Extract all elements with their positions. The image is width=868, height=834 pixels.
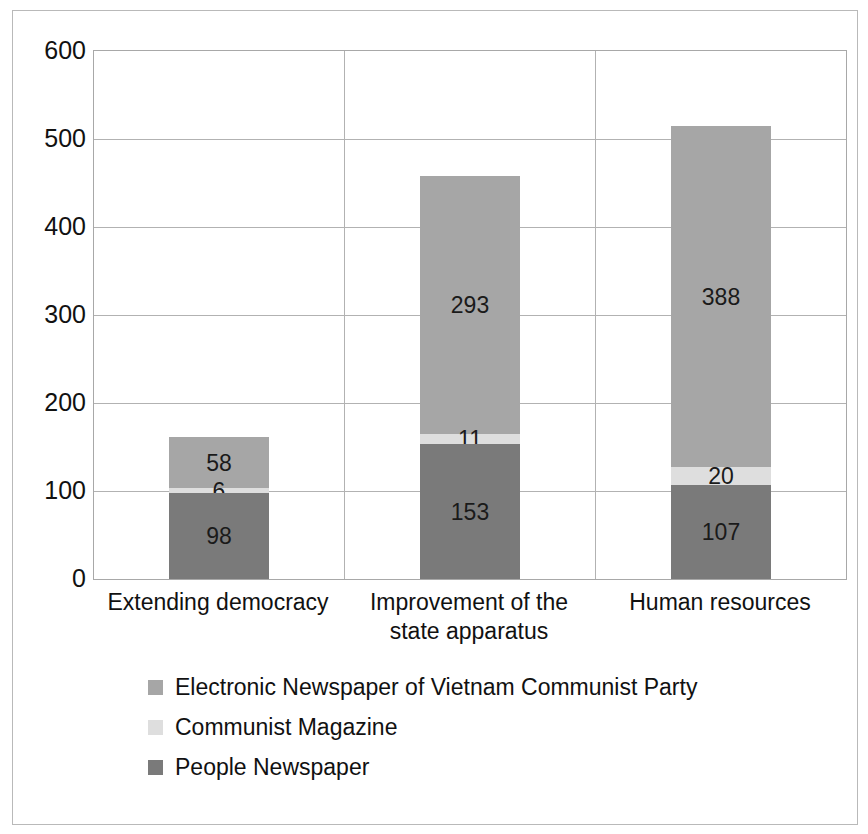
y-axis-tick-0: 0 <box>16 566 86 591</box>
legend-swatch-icon-people-newspaper <box>148 760 163 775</box>
x-axis-label-3: Human resources <box>595 588 845 617</box>
legend-swatch-icon-electronic-newspaper <box>148 680 163 695</box>
y-axis-tick-400: 400 <box>16 214 86 239</box>
legend-label-people-newspaper: People Newspaper <box>175 754 369 780</box>
legend-item-people-newspaper[interactable]: People Newspaper <box>148 747 788 787</box>
y-axis-tick-600: 600 <box>16 38 86 63</box>
x-axis-label-1: Extending democracy <box>93 588 343 617</box>
bar-stack-1[interactable]: 58 6 98 <box>169 437 269 579</box>
bar-segment-people-3[interactable]: 107 <box>671 485 771 579</box>
legend-item-communist-magazine[interactable]: Communist Magazine <box>148 707 788 747</box>
bar-value-people-2: 153 <box>420 500 520 523</box>
bar-value-people-3: 107 <box>671 521 771 544</box>
x-axis-label-2-line-1: Improvement of the <box>344 588 594 617</box>
y-axis-tick-100: 100 <box>16 478 86 503</box>
bar-segment-electronic-2[interactable]: 293 <box>420 176 520 434</box>
bar-value-electronic-3: 388 <box>671 285 771 308</box>
x-axis-label-3-line-1: Human resources <box>595 588 845 617</box>
category-band-2: 293 11 153 <box>345 51 595 579</box>
legend-item-electronic-newspaper[interactable]: Electronic Newspaper of Vietnam Communis… <box>148 667 788 707</box>
bar-segment-electronic-1[interactable]: 58 <box>169 437 269 488</box>
bar-stack-3[interactable]: 388 20 107 <box>671 126 771 579</box>
plot-area: 58 6 98 293 11 <box>93 50 847 580</box>
y-axis-tick-300: 300 <box>16 302 86 327</box>
category-band-1: 58 6 98 <box>94 51 344 579</box>
bar-segment-people-2[interactable]: 153 <box>420 444 520 579</box>
bar-segment-magazine-2[interactable]: 11 <box>420 434 520 444</box>
bar-stack-2[interactable]: 293 11 153 <box>420 176 520 579</box>
stacked-bar-chart: 600 500 400 300 200 100 0 58 6 <box>0 0 868 834</box>
legend-label-electronic-newspaper: Electronic Newspaper of Vietnam Communis… <box>175 674 697 700</box>
category-band-3: 388 20 107 <box>596 51 846 579</box>
bar-segment-magazine-3[interactable]: 20 <box>671 467 771 485</box>
legend-label-communist-magazine: Communist Magazine <box>175 714 397 740</box>
bar-value-electronic-2: 293 <box>420 294 520 317</box>
bar-value-electronic-1: 58 <box>169 451 269 474</box>
x-axis-label-2-line-2: state apparatus <box>344 617 594 646</box>
legend-swatch-icon-communist-magazine <box>148 720 163 735</box>
bar-value-people-1: 98 <box>169 525 269 548</box>
bar-segment-people-1[interactable]: 98 <box>169 493 269 579</box>
x-axis-label-2: Improvement of the state apparatus <box>344 588 594 646</box>
chart-legend: Electronic Newspaper of Vietnam Communis… <box>148 667 788 787</box>
y-axis-tick-500: 500 <box>16 126 86 151</box>
y-axis-tick-200: 200 <box>16 390 86 415</box>
bar-segment-electronic-3[interactable]: 388 <box>671 126 771 467</box>
x-axis-label-1-line-1: Extending democracy <box>93 588 343 617</box>
